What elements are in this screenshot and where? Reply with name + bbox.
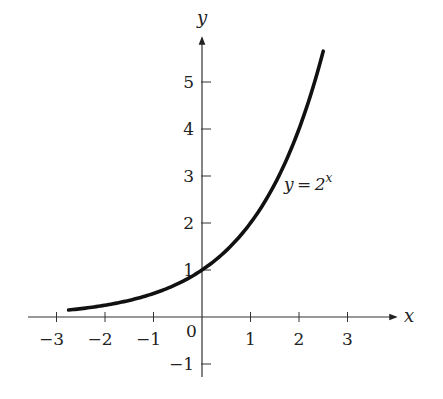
- y-tick-label: 3: [183, 166, 194, 186]
- x-tick-label: −2: [87, 329, 112, 349]
- x-tick-label: 2: [294, 329, 305, 349]
- curve-annotation: y = 2x: [283, 171, 332, 194]
- exponential-plot: −3−2−1123−112345 x y 0 y = 2x: [0, 0, 443, 399]
- y-tick-label: −1: [169, 354, 194, 374]
- y-tick-label: 2: [183, 213, 194, 233]
- y-tick-label: 4: [183, 119, 194, 139]
- axes: [28, 38, 396, 377]
- y-axis-label: y: [196, 7, 208, 28]
- x-tick-label: 1: [245, 329, 256, 349]
- x-axis-label: x: [404, 305, 414, 326]
- origin-label: 0: [186, 321, 197, 341]
- x-tick-label: −3: [39, 329, 64, 349]
- x-tick-label: 3: [342, 329, 353, 349]
- x-tick-label: −1: [136, 329, 161, 349]
- y-tick-label: 5: [183, 72, 194, 92]
